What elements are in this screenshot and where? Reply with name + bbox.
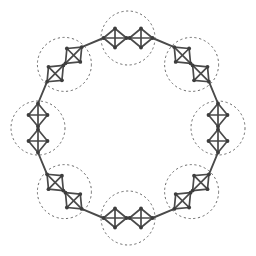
graph-node [65, 206, 69, 210]
figure-root [0, 0, 256, 256]
graph-node [61, 189, 65, 193]
graph-node [174, 192, 178, 196]
graph-node [60, 78, 64, 82]
graph-node [172, 207, 176, 211]
graph-node [151, 36, 155, 40]
graph-node [46, 139, 50, 143]
graph-node [172, 45, 176, 49]
graph-node [139, 226, 143, 230]
graph-node [207, 113, 211, 117]
graph-node [139, 207, 143, 211]
graph-node [36, 151, 40, 155]
graph-diagram-canvas [0, 0, 256, 256]
graph-node [207, 80, 211, 84]
graph-node [139, 27, 143, 31]
graph-node [78, 60, 82, 64]
graph-node [45, 80, 49, 84]
graph-node [80, 207, 84, 211]
graph-node [187, 206, 191, 210]
graph-node [80, 45, 84, 49]
graph-node [174, 60, 178, 64]
graph-node [207, 172, 211, 176]
graph-node [60, 174, 64, 178]
graph-node [46, 113, 50, 117]
graph-node [113, 226, 117, 230]
graph-node [27, 113, 31, 117]
graph-node [216, 151, 220, 155]
graph-node [102, 216, 106, 220]
graph-node [139, 46, 143, 50]
graph-node [187, 47, 191, 51]
graph-node [206, 65, 210, 69]
graph-node [191, 64, 195, 68]
graph-node [65, 47, 69, 51]
graph-node [27, 139, 31, 143]
graph-node [189, 191, 193, 195]
graph-node [226, 113, 230, 117]
graph-node [192, 174, 196, 178]
graph-node [113, 46, 117, 50]
graph-node [45, 172, 49, 176]
graph-node [207, 139, 211, 143]
graph-node [128, 36, 132, 40]
graph-node [206, 187, 210, 191]
graph-node [113, 207, 117, 211]
graph-node [47, 65, 51, 69]
graph-node [113, 27, 117, 31]
graph-node [192, 78, 196, 82]
graph-node [216, 128, 220, 132]
graph-node [125, 216, 129, 220]
graph-node [36, 128, 40, 132]
graph-node [151, 216, 155, 220]
graph-node [64, 61, 68, 65]
graph-node [102, 36, 106, 40]
graph-node [78, 192, 82, 196]
graph-node [216, 102, 220, 106]
graph-node [226, 139, 230, 143]
graph-node [47, 187, 51, 191]
graph-node [36, 102, 40, 106]
